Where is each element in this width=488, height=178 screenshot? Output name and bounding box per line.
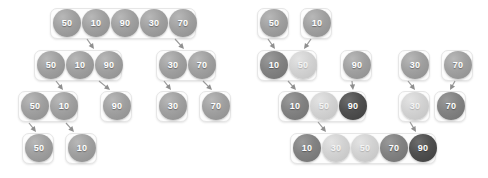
value-bubble: 90	[343, 51, 371, 79]
value-bubble: 30	[401, 51, 429, 79]
value-bubble: 70	[444, 51, 472, 79]
value-bubble: 50	[351, 134, 379, 162]
value-bubble: 50	[310, 92, 338, 120]
value-bubble: 10	[281, 92, 309, 120]
value-bubble: 90	[339, 92, 367, 120]
value-bubble: 70	[380, 134, 408, 162]
value-bubble: 90	[409, 134, 437, 162]
phase-merge-phase: 5010105090307010509030701030507090	[0, 0, 488, 178]
merge-sort-diagram: 5010903070501090307050109030705010501010…	[0, 0, 488, 178]
value-bubble: 10	[260, 51, 288, 79]
value-bubble: 10	[293, 134, 321, 162]
value-bubble: 50	[289, 51, 317, 79]
value-bubble: 50	[260, 9, 288, 37]
value-bubble: 30	[322, 134, 350, 162]
value-bubble: 30	[401, 92, 429, 120]
value-bubble: 70	[437, 92, 465, 120]
value-bubble: 10	[303, 9, 331, 37]
